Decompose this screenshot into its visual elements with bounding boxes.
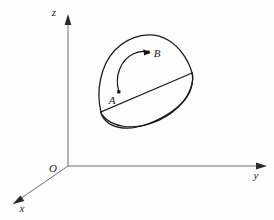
point-A-label: A — [108, 94, 116, 106]
y-axis — [68, 163, 267, 170]
axes-group: z y x O — [13, 6, 268, 214]
point-B-label: B — [154, 47, 161, 59]
z-axis-arrowhead — [65, 14, 72, 25]
arc-A-to-B-stroke — [117, 51, 147, 92]
surface-rim-front-edge — [103, 73, 193, 127]
z-axis-label: z — [51, 6, 57, 18]
x-axis-label: x — [19, 202, 25, 214]
coordinate-system-figure: z y x O A B — [0, 0, 274, 220]
directed-arc-A-to-B — [117, 49, 150, 92]
point-A-dot — [117, 90, 120, 93]
curved-surface-with-elliptical-rim — [99, 35, 193, 128]
point-B-dot — [146, 51, 149, 54]
x-axis-line — [20, 166, 68, 199]
z-axis — [65, 14, 72, 166]
origin-label: O — [49, 162, 57, 174]
y-axis-label: y — [253, 169, 259, 181]
x-axis — [13, 166, 69, 204]
